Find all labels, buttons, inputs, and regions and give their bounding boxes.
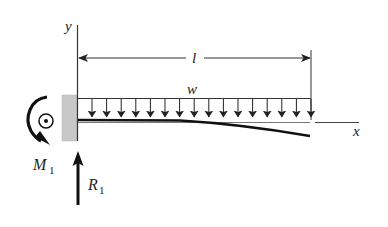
moment-dot — [44, 119, 48, 123]
x-axis-label: x — [352, 123, 360, 139]
load-label: w — [187, 81, 197, 97]
reaction-label-subscript: 1 — [99, 184, 105, 196]
y-axis-label: y — [63, 18, 72, 34]
moment-arrowhead — [35, 131, 50, 145]
reaction-label: R — [87, 176, 98, 193]
length-label: l — [192, 50, 196, 66]
moment-label: M — [32, 156, 48, 173]
cantilever-beam-diagram: y l w x M 1 R 1 — [0, 0, 388, 227]
fixed-wall-support — [62, 95, 77, 141]
load-arrows — [92, 99, 311, 117]
moment-label-subscript: 1 — [49, 164, 55, 176]
